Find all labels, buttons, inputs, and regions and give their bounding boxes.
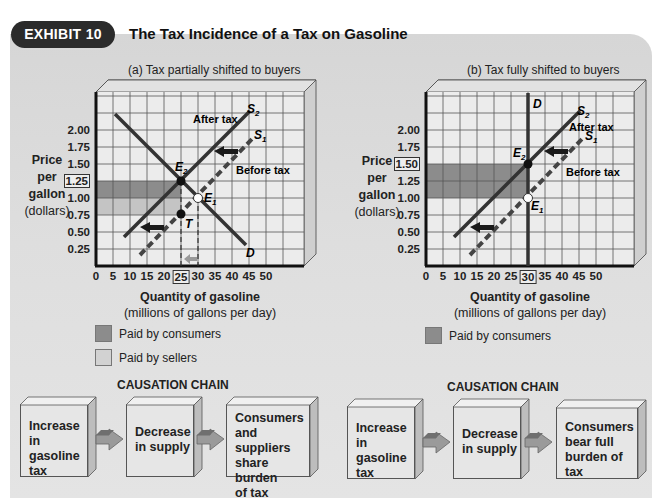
chain-b-box-2: Decreasein supply xyxy=(453,406,521,479)
chain-b-text-1: Increasein gasolinetax xyxy=(356,421,414,481)
legend-paid-by-consumers-b: Paid by consumers xyxy=(425,327,551,344)
panel-b-chain-title: CAUSATION CHAIN xyxy=(447,380,559,394)
chain-arrow-icon xyxy=(524,430,554,456)
swatch-consumers xyxy=(425,327,442,344)
panel-b-xticks: 0 5 10 15 20 25 30 35 40 45 50 xyxy=(0,270,663,286)
panel-b-xlabel: Quantity of gasoline(millions of gallons… xyxy=(440,289,620,321)
label-s2-b: S2 xyxy=(577,104,589,120)
chain-b-box-3: Consumersbear fullburden of tax xyxy=(556,407,638,479)
label-e2-b: E2 xyxy=(513,146,525,162)
chain-arrow-icon xyxy=(422,430,452,456)
chain-b-box-1: Increasein gasolinetax xyxy=(347,406,415,479)
chain-b-text-3: Consumersbear fullburden of tax xyxy=(565,420,637,480)
label-e1-b: E1 xyxy=(531,199,543,215)
label-before-tax-b: Before tax xyxy=(566,166,620,178)
label-after-tax-b: After tax xyxy=(569,121,614,133)
chain-b-text-2: Decreasein supply xyxy=(462,427,518,457)
label-d-b: D xyxy=(533,97,542,111)
